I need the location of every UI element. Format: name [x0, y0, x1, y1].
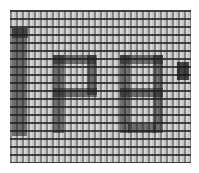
glyph-8-top: [120, 55, 163, 64]
glyph-i-bar: [12, 28, 27, 136]
glyph-i-cap: [12, 28, 28, 38]
glyph-p-mid: [53, 88, 97, 97]
glyph-8-mid: [120, 88, 163, 97]
glyph-8-bottom: [128, 124, 156, 133]
pixel-grid: IP8': [10, 10, 191, 163]
glyph-text: IP8': [10, 10, 12, 11]
glyph-mark: [177, 62, 189, 80]
